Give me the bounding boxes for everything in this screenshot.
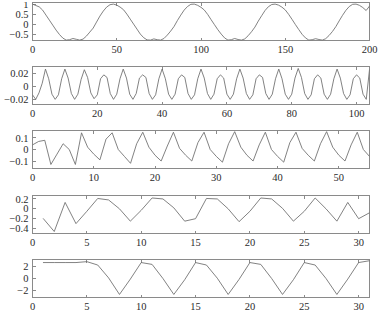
x-tick-label: 100 xyxy=(193,44,209,55)
x-tick-label: 10 xyxy=(89,172,100,183)
x-tick-label: 10 xyxy=(136,237,147,248)
x-tick-label: 25 xyxy=(299,301,310,312)
y-tick-label: 0 xyxy=(23,273,28,284)
plot-area-1: 05010015020010.50−0.5 xyxy=(0,2,379,62)
x-tick-label: 15 xyxy=(190,237,201,248)
plot-area-2: 0204060801000.020−0.02 xyxy=(0,66,379,126)
x-tick-label: 25 xyxy=(299,237,310,248)
subplot-2: 0204060801000.020−0.02 xyxy=(0,66,379,126)
x-tick-label: 20 xyxy=(245,301,256,312)
data-series-line xyxy=(43,197,369,231)
plot-area-5: 05101520253020−2 xyxy=(0,259,379,319)
x-tick-label: 40 xyxy=(157,108,168,119)
x-tick-label: 100 xyxy=(349,108,365,119)
subplot-5: 05101520253020−2 xyxy=(0,259,379,319)
x-tick-label: 20 xyxy=(150,172,161,183)
axis-frame xyxy=(33,66,370,104)
x-tick-label: 50 xyxy=(334,172,345,183)
y-tick-label: −0.1 xyxy=(9,156,28,167)
subplot-4: 0510152025300.20−0.2−0.4 xyxy=(0,195,379,255)
x-tick-label: 10 xyxy=(136,301,147,312)
x-tick-label: 200 xyxy=(362,44,378,55)
multiresolution-decomposition-figure: 05010015020010.50−0.50204060801000.020−0… xyxy=(0,0,379,322)
plot-area-4: 0510152025300.20−0.2−0.4 xyxy=(0,195,379,255)
x-tick-label: 60 xyxy=(222,108,233,119)
data-series-line xyxy=(43,261,369,295)
subplot-3: 010203040500.10−0.1 xyxy=(0,130,379,190)
data-series-line xyxy=(33,4,370,40)
x-tick-label: 15 xyxy=(190,301,201,312)
x-tick-label: 20 xyxy=(92,108,103,119)
x-tick-label: 30 xyxy=(353,237,364,248)
x-tick-label: 0 xyxy=(30,237,35,248)
subplot-1: 05010015020010.50−0.5 xyxy=(0,2,379,62)
y-tick-label: −0.5 xyxy=(9,29,28,40)
x-tick-label: 5 xyxy=(84,237,89,248)
y-tick-label: −0.4 xyxy=(9,223,29,234)
x-tick-label: 50 xyxy=(112,44,123,55)
y-tick-label: −0.02 xyxy=(4,93,28,104)
x-tick-label: 0 xyxy=(30,172,35,183)
plot-area-3: 010203040500.10−0.1 xyxy=(0,130,379,190)
data-series-line xyxy=(33,68,370,99)
x-tick-label: 30 xyxy=(211,172,222,183)
x-tick-label: 80 xyxy=(286,108,297,119)
y-tick-label: −2 xyxy=(17,285,28,296)
axis-frame xyxy=(33,260,370,298)
x-tick-label: 5 xyxy=(84,301,89,312)
y-tick-label: 0 xyxy=(23,144,28,155)
x-tick-label: 40 xyxy=(272,172,283,183)
x-tick-label: 0 xyxy=(30,108,35,119)
x-tick-label: 0 xyxy=(30,44,35,55)
data-series-line xyxy=(33,132,370,165)
y-tick-label: 0 xyxy=(23,81,28,92)
x-tick-label: 20 xyxy=(245,237,256,248)
x-tick-label: 150 xyxy=(277,44,293,55)
x-tick-label: 0 xyxy=(30,301,35,312)
y-tick-label: 0.02 xyxy=(10,68,28,79)
axis-frame xyxy=(33,3,370,41)
y-tick-label: 2 xyxy=(23,261,28,272)
x-tick-label: 30 xyxy=(353,301,364,312)
y-tick-label: 0.1 xyxy=(15,133,28,144)
